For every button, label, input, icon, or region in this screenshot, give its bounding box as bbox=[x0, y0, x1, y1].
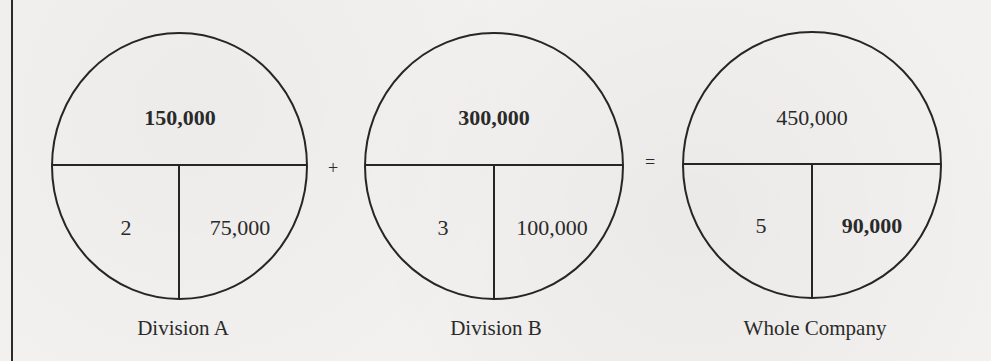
division-a-top-value: 150,000 bbox=[144, 107, 216, 129]
division-b-bottom-right: 100,000 bbox=[516, 217, 588, 239]
whole-company-caption: Whole Company bbox=[744, 318, 887, 339]
whole-company-bottom-right: 90,000 bbox=[842, 215, 903, 237]
circle-division-a bbox=[52, 33, 307, 299]
circle-division-b bbox=[365, 33, 623, 299]
division-a-bottom-left: 2 bbox=[121, 217, 132, 239]
equals-operator: = bbox=[645, 152, 655, 173]
page-background: + = 150,000 2 75,000 Division A 300,000 … bbox=[0, 0, 991, 361]
whole-company-top-value: 450,000 bbox=[776, 107, 848, 129]
whole-company-bottom-left: 5 bbox=[756, 215, 767, 237]
division-b-bottom-left: 3 bbox=[438, 217, 449, 239]
division-b-top-value: 300,000 bbox=[458, 107, 530, 129]
division-a-bottom-right: 75,000 bbox=[210, 217, 271, 239]
circle-diagrams bbox=[0, 0, 991, 361]
plus-operator: + bbox=[328, 158, 338, 179]
division-b-caption: Division B bbox=[450, 318, 542, 339]
circle-whole-company bbox=[683, 32, 941, 298]
division-a-caption: Division A bbox=[137, 318, 229, 339]
